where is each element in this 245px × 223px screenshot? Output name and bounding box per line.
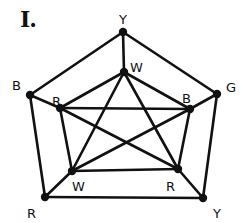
vertex-label-outer_left: B: [12, 78, 21, 93]
vertex-inner_right: [186, 105, 194, 113]
vertex-outer_right: [213, 90, 221, 98]
vertex-label-inner_br: R: [166, 179, 175, 194]
vertex-inner_top: [120, 68, 128, 76]
edge-inner_right-inner_br: [178, 109, 190, 169]
edge-outer_top-inner_top: [123, 32, 124, 72]
edge-inner_bl-inner_br: [72, 169, 178, 171]
vertex-label-outer_right: G: [226, 80, 236, 95]
vertex-label-inner_left: R: [52, 94, 61, 109]
vertex-label-inner_top: W: [130, 60, 143, 75]
edge-inner_left-inner_bl: [60, 108, 72, 171]
edge-outer_br-inner_br: [178, 169, 203, 198]
graph-edges: [30, 32, 217, 198]
vertex-outer_top: [119, 28, 127, 36]
vertex-outer_bl: [41, 193, 49, 201]
graph-diagram: YGYRBWBRWR: [0, 0, 245, 223]
edge-outer_left-outer_top: [30, 32, 123, 95]
vertex-label-inner_right: B: [182, 91, 191, 106]
edge-outer_bl-outer_left: [30, 95, 45, 197]
vertex-label-outer_top: Y: [118, 12, 127, 27]
edge-outer_right-inner_right: [190, 94, 217, 109]
edge-outer_br-outer_bl: [45, 197, 203, 198]
edge-inner_left-inner_right: [60, 108, 190, 109]
vertex-label-inner_bl: W: [72, 179, 85, 194]
vertex-outer_left: [26, 91, 34, 99]
vertex-inner_bl: [68, 167, 76, 175]
edge-outer_right-outer_br: [203, 94, 217, 198]
edge-outer_bl-inner_bl: [45, 171, 72, 197]
vertex-outer_br: [199, 194, 207, 202]
vertex-inner_br: [174, 165, 182, 173]
vertex-label-outer_bl: R: [27, 206, 36, 221]
vertex-label-outer_br: Y: [212, 206, 221, 221]
